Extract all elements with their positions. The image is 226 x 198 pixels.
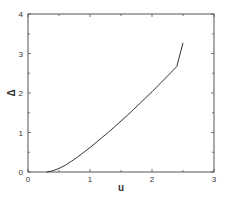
y-axis-label: Δ (6, 89, 17, 96)
x-tick-label: 2 (150, 175, 155, 184)
y-tick-label: 4 (19, 10, 24, 19)
data-series (47, 43, 183, 172)
line-chart: 012301234 u Δ (0, 0, 226, 198)
axis-ticks (28, 14, 214, 172)
x-tick-label: 1 (88, 175, 93, 184)
x-tick-label: 3 (212, 175, 217, 184)
y-tick-label: 0 (19, 168, 24, 177)
x-tick-label: 0 (26, 175, 31, 184)
y-tick-label: 2 (19, 89, 24, 98)
series-line (47, 43, 183, 172)
tick-labels: 012301234 (19, 10, 217, 184)
y-tick-label: 1 (19, 129, 24, 138)
y-tick-label: 3 (19, 50, 24, 59)
x-axis-label: u (118, 182, 124, 193)
plot-frame (28, 14, 214, 172)
plot-border (28, 14, 214, 172)
